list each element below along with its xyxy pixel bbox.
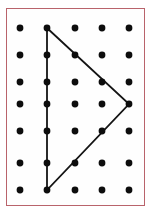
peg-dot-c3-r3 <box>72 79 79 86</box>
peg-dot-c5-r7 <box>126 187 133 194</box>
peg-dot-c2-r4 <box>44 101 51 108</box>
peg-dot-c2-r5 <box>44 128 51 135</box>
peg-dot-c2-r2 <box>44 52 51 59</box>
board-canvas <box>0 0 151 220</box>
peg-dot-c5-r5 <box>126 128 133 135</box>
peg-dot-c5-r4 <box>126 101 133 108</box>
peg-dot-c1-r6 <box>17 160 24 167</box>
peg-dot-grid <box>17 25 133 194</box>
peg-dot-c4-r4 <box>99 101 106 108</box>
peg-dot-c3-r7 <box>72 187 79 194</box>
peg-dot-c5-r3 <box>126 79 133 86</box>
peg-dot-c1-r1 <box>17 25 24 32</box>
peg-dot-c5-r2 <box>126 52 133 59</box>
peg-dot-c4-r5 <box>99 128 106 135</box>
peg-dot-c3-r2 <box>72 52 79 59</box>
peg-dot-c3-r6 <box>72 160 79 167</box>
peg-dot-c2-r6 <box>44 160 51 167</box>
peg-dot-c3-r1 <box>72 25 79 32</box>
peg-dot-c4-r2 <box>99 52 106 59</box>
peg-dot-c2-r3 <box>44 79 51 86</box>
peg-dot-c4-r6 <box>99 160 106 167</box>
geoboard-figure <box>0 0 151 220</box>
peg-dot-c2-r7 <box>44 187 51 194</box>
peg-dot-c5-r6 <box>126 160 133 167</box>
peg-dot-c1-r4 <box>17 101 24 108</box>
triangle-outline <box>47 28 129 190</box>
peg-dot-c1-r5 <box>17 128 24 135</box>
peg-dot-c3-r4 <box>72 101 79 108</box>
peg-dot-c1-r7 <box>17 187 24 194</box>
triangle-shape <box>47 28 129 190</box>
peg-dot-c4-r7 <box>99 187 106 194</box>
peg-dot-c2-r1 <box>44 25 51 32</box>
peg-dot-c3-r5 <box>72 128 79 135</box>
peg-dot-c4-r3 <box>99 79 106 86</box>
peg-dot-c4-r1 <box>99 25 106 32</box>
peg-dot-c1-r3 <box>17 79 24 86</box>
peg-dot-c5-r1 <box>126 25 133 32</box>
peg-dot-c1-r2 <box>17 52 24 59</box>
